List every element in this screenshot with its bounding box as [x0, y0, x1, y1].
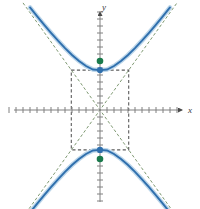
- y-axis-label: y: [101, 2, 106, 12]
- plot-canvas: x y: [0, 0, 200, 209]
- axes-group: [9, 12, 182, 202]
- upper-vertex-point: [97, 67, 103, 73]
- hyperbola-figure: x y: [0, 0, 200, 209]
- upper-focus-point: [97, 58, 104, 65]
- lower-focus-point: [97, 156, 104, 163]
- x-axis-label: x: [187, 105, 192, 115]
- lower-vertex-point: [97, 147, 103, 153]
